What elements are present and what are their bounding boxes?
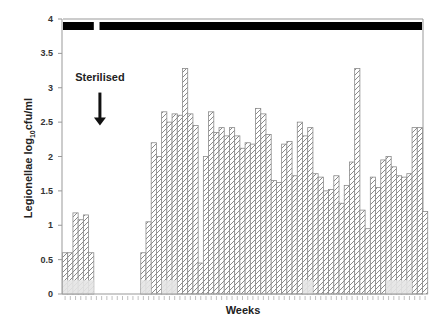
- bar-week-35: [240, 148, 245, 294]
- y-axis: 00.511.522.533.54: [40, 14, 62, 299]
- base-shading-5: [386, 280, 412, 294]
- y-axis-title-subscript: 10: [29, 130, 36, 138]
- bar-week-53: [334, 176, 339, 294]
- bar-week-26: [193, 126, 198, 294]
- bar-week-23: [177, 115, 182, 294]
- bar-week-36: [245, 143, 250, 294]
- bar-week-25: [188, 114, 193, 294]
- bar-week-19: [156, 157, 161, 295]
- bar-week-67: [407, 174, 412, 294]
- bar-week-34: [235, 136, 240, 294]
- bar-week-43: [282, 144, 287, 294]
- bar-week-70: [423, 212, 428, 295]
- bar-week-60: [370, 177, 375, 294]
- bar-week-33: [229, 128, 234, 294]
- y-tick-label: 2.5: [40, 117, 53, 127]
- bar-week-32: [224, 136, 229, 294]
- bar-week-46: [297, 122, 302, 294]
- treatment-period-bar-1: [63, 22, 94, 30]
- bar-week-57: [355, 69, 360, 295]
- bar-week-59: [365, 229, 370, 294]
- bar-week-50: [318, 177, 323, 294]
- bar-week-69: [417, 128, 422, 294]
- y-axis-title-unit: cfu/ml: [22, 98, 34, 130]
- bar-week-30: [214, 132, 219, 294]
- bar-week-45: [292, 176, 297, 294]
- arrow-down-icon: [94, 93, 106, 126]
- bar-week-29: [209, 112, 214, 294]
- y-tick-label: 1.5: [40, 186, 53, 196]
- x-axis-title: Weeks: [226, 304, 261, 316]
- bar-week-40: [266, 135, 271, 295]
- y-axis-title-main: Legionellae log: [22, 138, 34, 218]
- y-tick-label: 0: [48, 289, 53, 299]
- bar-week-66: [402, 177, 407, 294]
- base-shading-4: [303, 280, 313, 294]
- bar-week-52: [329, 190, 334, 295]
- bar-week-28: [203, 157, 208, 295]
- bar-week-37: [250, 144, 255, 294]
- bar-week-51: [323, 191, 328, 294]
- bar-week-56: [349, 162, 354, 294]
- bar-week-27: [198, 263, 203, 294]
- bar-week-39: [261, 114, 266, 294]
- y-tick-label: 0.5: [40, 255, 53, 265]
- bar-week-64: [391, 167, 396, 294]
- bar-week-21: [167, 122, 172, 294]
- bar-week-44: [287, 141, 292, 294]
- bar-week-47: [303, 136, 308, 294]
- y-tick-label: 4: [48, 14, 53, 24]
- bar-week-58: [360, 210, 365, 294]
- legionellae-bar-chart: 00.511.522.533.54 Weeks Legionellae log1…: [0, 0, 437, 324]
- base-shading-1: [63, 280, 94, 294]
- bar-week-54: [339, 203, 344, 294]
- arrow-head: [94, 118, 106, 126]
- bar-week-42: [276, 183, 281, 294]
- bar-week-62: [381, 160, 386, 294]
- bar-week-18: [151, 143, 156, 294]
- base-shading-2: [141, 280, 151, 294]
- y-tick-label: 1: [48, 220, 53, 230]
- arrow-shaft: [98, 93, 101, 119]
- bar-week-65: [396, 176, 401, 294]
- bar-week-22: [172, 114, 177, 294]
- y-tick-label: 2: [48, 152, 53, 162]
- y-tick-label: 3: [48, 83, 53, 93]
- y-tick-label: 3.5: [40, 48, 53, 58]
- bar-week-31: [219, 128, 224, 294]
- bar-week-61: [376, 187, 381, 294]
- x-axis: [62, 294, 425, 300]
- treatment-period-bar-2: [100, 22, 422, 30]
- y-axis-title: Legionellae log10cfu/ml: [22, 98, 36, 218]
- base-shading-3: [162, 280, 178, 294]
- bar-week-20: [162, 112, 167, 294]
- bar-week-49: [313, 174, 318, 294]
- bar-week-63: [386, 157, 391, 295]
- bar-week-55: [344, 185, 349, 294]
- annotations: Sterilised: [75, 71, 125, 126]
- treatment-periods: [63, 22, 422, 30]
- bar-week-68: [412, 128, 417, 294]
- sterilised-annotation: Sterilised: [75, 71, 125, 83]
- bars-group: [63, 69, 428, 295]
- bar-week-41: [271, 181, 276, 294]
- bar-week-38: [256, 108, 261, 294]
- bar-week-24: [183, 69, 188, 295]
- bar-week-48: [308, 128, 313, 294]
